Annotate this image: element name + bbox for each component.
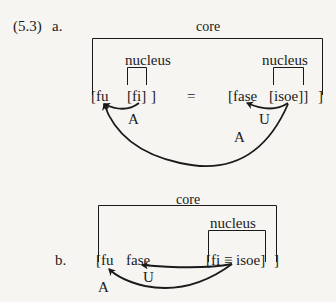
nucleus-label-a2: nucleus [262,53,308,68]
token-isoe: [isoe]] [269,89,308,104]
equals-sign: = [187,89,195,104]
nucleus-label-b: nucleus [210,216,256,231]
part-a-label: a. [52,19,62,34]
token-b-close: ] [274,253,279,268]
nucleus-bracket-a2 [274,68,304,86]
core-label-b: core [176,192,200,207]
token-b-fu: [fu [96,253,114,268]
arrow-label-b-to-fu: A [98,280,109,295]
token-fase: [fase [228,89,257,104]
token-close-2: ] [318,89,323,104]
token-b-fi-isoe: [fi ≡ isoe] [206,253,265,268]
example-number: (5.3) [13,19,42,34]
token-fi: [fi] [127,89,146,104]
token-b-fase: fase [126,253,150,268]
arrow-label-isoe-to-fu: A [234,130,245,145]
diagram-lines [0,0,336,302]
nucleus-label-a1: nucleus [125,53,171,68]
part-b-label: b. [55,253,66,268]
arrow-label-isoe-to-fase: U [259,112,270,127]
arrow-label-fi-to-fu: A [128,112,139,127]
core-label-a: core [196,19,220,34]
token-fu: [fu [91,89,109,104]
arrow-label-b-to-fase: U [143,270,154,285]
nucleus-bracket-a1 [128,68,147,86]
token-close-1: ] [151,89,156,104]
